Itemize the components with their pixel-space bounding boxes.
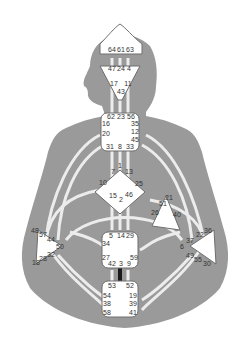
gate-38: 38 (103, 300, 111, 307)
gate-30: 30 (203, 260, 211, 267)
gate-15: 15 (109, 192, 117, 199)
gate-9: 9 (127, 260, 131, 267)
gate-5: 5 (109, 232, 113, 239)
gate-24: 24 (117, 65, 125, 72)
gate-42: 42 (108, 260, 116, 267)
gate-52: 52 (126, 282, 134, 289)
gate-40: 40 (173, 211, 181, 218)
gate-61: 61 (117, 46, 125, 53)
gate-14: 14 (117, 232, 125, 239)
gate-41: 41 (129, 309, 137, 316)
gate-50: 50 (56, 243, 64, 250)
gate-35: 35 (131, 120, 139, 127)
gate-20: 20 (102, 130, 110, 137)
gate-37: 37 (186, 237, 194, 244)
gate-36: 36 (204, 227, 212, 234)
gate-7: 7 (111, 168, 115, 175)
gate-46: 46 (125, 191, 133, 198)
gate-19: 19 (129, 292, 137, 299)
gate-16: 16 (102, 120, 110, 127)
gate-33: 33 (126, 143, 134, 150)
bodygraph: 64 61 63 47 24 4 17 11 43 62 23 56 16 35… (0, 0, 251, 342)
gate-54: 54 (103, 292, 111, 299)
gate-4: 4 (127, 65, 131, 72)
gate-18: 18 (32, 259, 40, 266)
gate-28: 28 (39, 255, 47, 262)
gate-10: 10 (99, 179, 107, 186)
gate-44: 44 (47, 236, 55, 243)
gate-64: 64 (108, 46, 116, 53)
gate-29: 29 (126, 232, 134, 239)
gate-12: 12 (131, 128, 139, 135)
gate-62: 62 (107, 113, 115, 120)
gate-11: 11 (124, 80, 131, 87)
gate-45: 45 (131, 136, 139, 143)
gate-55: 55 (194, 256, 202, 263)
gate-49: 49 (186, 252, 194, 259)
gate-22: 22 (196, 231, 204, 238)
gate-51: 51 (159, 200, 167, 207)
gate-23: 23 (117, 113, 125, 120)
gate-8: 8 (118, 143, 122, 150)
gate-47: 47 (108, 65, 116, 72)
gate-26: 26 (151, 209, 159, 216)
gate-43: 43 (117, 88, 125, 95)
gate-25: 25 (135, 180, 143, 187)
gate-13: 13 (125, 168, 133, 175)
gate-2: 2 (119, 196, 123, 203)
gate-48: 48 (31, 227, 39, 234)
gate-39: 39 (129, 300, 137, 307)
gate-57: 57 (39, 231, 47, 238)
gate-34: 34 (102, 240, 110, 247)
gate-6: 6 (180, 243, 184, 250)
gate-59: 59 (130, 254, 138, 261)
gate-56: 56 (127, 113, 135, 120)
gate-31: 31 (106, 143, 114, 150)
gate-17: 17 (110, 80, 118, 87)
gate-58: 58 (103, 309, 111, 316)
gate-1: 1 (118, 162, 122, 169)
gate-53: 53 (108, 282, 116, 289)
gate-32: 32 (47, 251, 55, 258)
gate-3: 3 (119, 260, 123, 267)
gate-63: 63 (126, 46, 134, 53)
